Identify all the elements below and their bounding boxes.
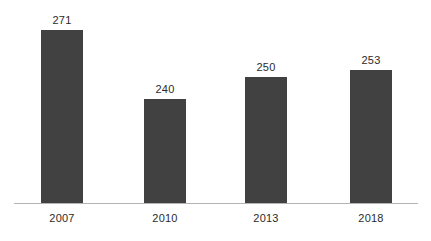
- bar-value-label-2013: 250: [245, 61, 287, 74]
- x-tick-label-2018: 2018: [350, 212, 392, 225]
- x-tick-label-2013: 2013: [245, 212, 287, 225]
- x-tick-label-2007: 2007: [41, 212, 83, 225]
- bar-chart: 271 240 250 253 2007 2010 2013 2018: [0, 0, 431, 241]
- bar-value-label-2007: 271: [41, 14, 83, 27]
- bar-value-label-2018: 253: [350, 54, 392, 67]
- plot-area: 271 240 250 253 2007 2010 2013 2018: [0, 0, 431, 241]
- bar-2018: [350, 70, 392, 203]
- bar-2013: [245, 77, 287, 203]
- bar-2007: [41, 30, 83, 203]
- bar-2010: [144, 99, 186, 203]
- x-tick-label-2010: 2010: [144, 212, 186, 225]
- bar-value-label-2010: 240: [144, 83, 186, 96]
- x-axis-line: [14, 203, 418, 204]
